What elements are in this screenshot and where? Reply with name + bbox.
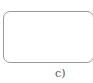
rounded-rectangle-panel [3, 11, 93, 63]
panel-label: c) [55, 68, 65, 80]
